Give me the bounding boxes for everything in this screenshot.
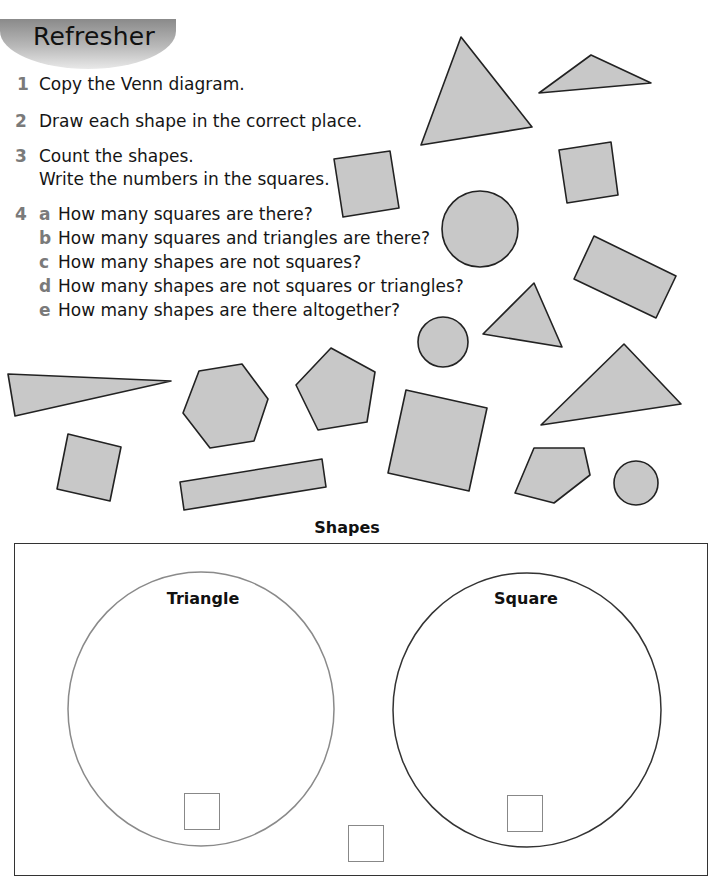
venn-label-square: Square	[466, 589, 586, 608]
square-count-box[interactable]	[507, 795, 543, 832]
triangle-count-box[interactable]	[184, 793, 220, 830]
venn-circles	[0, 0, 711, 878]
venn-label-triangle: Triangle	[143, 589, 263, 608]
outside-count-box[interactable]	[348, 825, 384, 862]
